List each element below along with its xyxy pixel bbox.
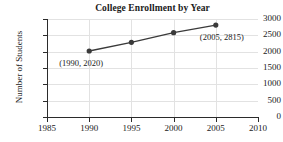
chart-figure: College Enrollment by Year Number of Stu… xyxy=(0,0,283,142)
point-annotation-label: (1990, 2020) xyxy=(59,58,103,68)
data-point-marker xyxy=(213,22,218,27)
series-line xyxy=(89,25,216,51)
point-annotation-label: (2005, 2815) xyxy=(200,32,244,42)
data-point-marker xyxy=(171,30,176,35)
data-series-layer xyxy=(0,0,283,142)
data-point-marker xyxy=(87,48,92,53)
data-point-marker xyxy=(129,40,134,45)
